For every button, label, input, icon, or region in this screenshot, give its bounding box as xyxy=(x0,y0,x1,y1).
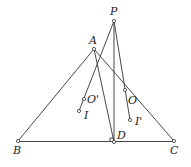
point-C xyxy=(172,139,175,142)
label-D: D xyxy=(117,130,126,141)
point-A xyxy=(92,47,95,50)
point-O xyxy=(123,88,126,91)
label-C: C xyxy=(170,145,178,156)
label-B: B xyxy=(13,145,21,156)
geometry-diagram: P A B C D O' I O I' xyxy=(0,0,191,167)
label-O: O xyxy=(128,95,137,106)
segment-AB xyxy=(18,49,94,141)
label-Iprime: I' xyxy=(135,116,142,127)
label-Oprime: O' xyxy=(87,94,99,105)
label-P: P xyxy=(110,6,117,17)
label-I: I xyxy=(84,110,88,121)
label-A: A xyxy=(89,35,97,46)
point-P xyxy=(112,19,115,22)
point-I xyxy=(77,109,80,112)
point-Iprime xyxy=(128,118,131,121)
point-D xyxy=(112,140,115,143)
point-B xyxy=(16,139,19,142)
diagram-canvas xyxy=(0,0,191,167)
point-Oprime xyxy=(82,97,85,100)
